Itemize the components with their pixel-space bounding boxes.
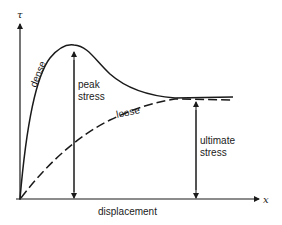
ultimate-stress-label-line2: stress — [200, 147, 227, 158]
dense-curve — [20, 45, 233, 199]
ultimate-stress-indicator: ultimate stress — [196, 102, 235, 198]
peak-stress-label-line2: stress — [78, 91, 105, 102]
loose-curve-label: loose — [115, 104, 141, 120]
stress-displacement-diagram: τ x displacement dense loose peak stress… — [0, 0, 282, 225]
dense-curve-label: dense — [28, 59, 49, 89]
ultimate-stress-label-line1: ultimate — [200, 135, 235, 146]
y-axis-label: τ — [17, 9, 23, 20]
peak-stress-label-line1: peak — [78, 79, 101, 90]
x-axis: x displacement — [16, 194, 269, 217]
x-axis-label: x — [263, 194, 269, 205]
x-axis-title: displacement — [98, 206, 157, 217]
